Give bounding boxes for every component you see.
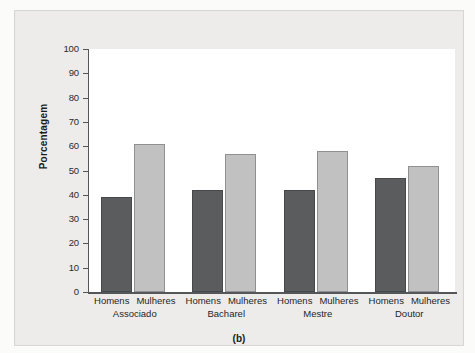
figure-page: 0102030405060708090100 Porcentagem Homen…	[0, 0, 475, 353]
bar-doutor-homens	[375, 178, 406, 292]
series-label-mulheres: Mulheres	[319, 295, 358, 306]
y-tick-label: 50	[53, 165, 79, 176]
series-label-row: HomensMulheres	[272, 295, 364, 306]
category-name-mestre: Mestre	[272, 308, 364, 319]
bar-doutor-mulheres	[408, 166, 439, 292]
y-tick-label: 60	[53, 140, 79, 151]
series-label-homens: Homens	[186, 295, 221, 306]
bar-associado-mulheres	[134, 144, 165, 292]
y-axis-title: Porcentagem	[38, 104, 49, 170]
bar-bacharel-mulheres	[225, 154, 256, 293]
series-label-mulheres: Mulheres	[411, 295, 450, 306]
bar-mestre-mulheres	[317, 151, 348, 292]
bar-associado-homens	[101, 197, 132, 292]
y-tick-label: 100	[53, 43, 79, 54]
panel-label: (b)	[15, 333, 463, 344]
bars-layer	[89, 49, 455, 292]
y-tick-label: 40	[53, 189, 79, 200]
category-name-doutor: Doutor	[364, 308, 456, 319]
y-tick-label: 90	[53, 67, 79, 78]
category-label-group: HomensMulheresAssociado	[89, 295, 181, 319]
bar-mestre-homens	[284, 190, 315, 292]
category-label-group: HomensMulheresMestre	[272, 295, 364, 319]
x-axis-category-labels: HomensMulheresAssociadoHomensMulheresBac…	[89, 295, 457, 331]
y-tick-label: 30	[53, 213, 79, 224]
bar-bacharel-homens	[192, 190, 223, 292]
series-label-homens: Homens	[277, 295, 312, 306]
category-name-associado: Associado	[89, 308, 181, 319]
series-label-mulheres: Mulheres	[136, 295, 175, 306]
series-label-mulheres: Mulheres	[228, 295, 267, 306]
y-tick-label: 80	[53, 92, 79, 103]
y-tick-label: 20	[53, 237, 79, 248]
y-tick-label: 10	[53, 262, 79, 273]
series-label-homens: Homens	[94, 295, 129, 306]
y-tick-mark	[83, 292, 89, 293]
category-label-group: HomensMulheresDoutor	[364, 295, 456, 319]
category-name-bacharel: Bacharel	[181, 308, 273, 319]
figure-plate: 0102030405060708090100 Porcentagem Homen…	[14, 10, 464, 346]
category-label-group: HomensMulheresBacharel	[181, 295, 273, 319]
y-tick-label: 0	[53, 286, 79, 297]
x-axis-line	[88, 292, 457, 294]
series-label-homens: Homens	[369, 295, 404, 306]
series-label-row: HomensMulheres	[181, 295, 273, 306]
series-label-row: HomensMulheres	[364, 295, 456, 306]
series-label-row: HomensMulheres	[89, 295, 181, 306]
y-tick-label: 70	[53, 116, 79, 127]
